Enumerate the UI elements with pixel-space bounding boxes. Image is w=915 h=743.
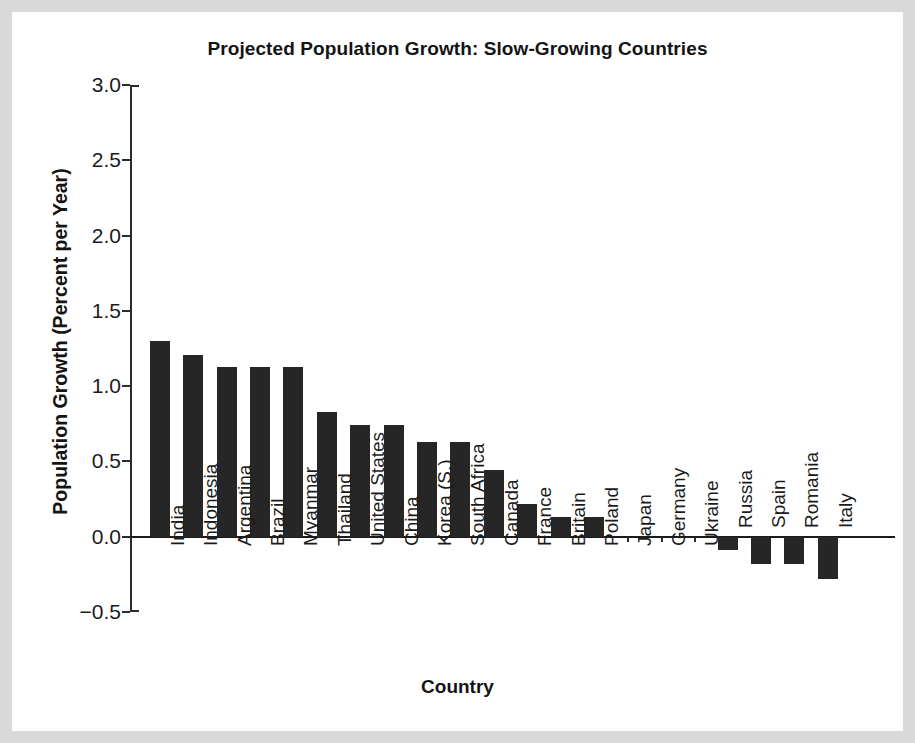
page-title: Projected Population Growth: Slow-Growin… [12, 38, 903, 60]
y-tick-label: 1.0 [92, 374, 121, 398]
bar-zero-tick [661, 537, 663, 542]
x-tick-label: Romania [801, 452, 823, 528]
y-tick-label: 2.0 [92, 224, 121, 248]
bar [784, 537, 804, 564]
x-tick-label: Argentina [234, 464, 256, 545]
y-tick-mark [122, 385, 130, 387]
chart-figure: Projected Population Growth: Slow-Growin… [12, 12, 903, 731]
y-axis-bottom-cap [130, 610, 139, 612]
y-tick-mark [122, 536, 130, 538]
y-tick-label: 2.5 [92, 148, 121, 172]
y-tick-mark [122, 84, 130, 86]
y-tick-mark [122, 159, 130, 161]
x-tick-label: Brazil [267, 498, 289, 546]
y-tick-mark [122, 310, 130, 312]
x-tick-label: Korea (S.) [434, 459, 456, 546]
y-tick-label: 0.0 [92, 525, 121, 549]
bar [751, 537, 771, 564]
x-axis-label: Country [12, 676, 903, 698]
x-tick-label: Japan [634, 494, 656, 546]
x-tick-label: Spain [768, 479, 790, 528]
y-axis-spine [130, 85, 132, 612]
x-tick-label: South Africa [467, 443, 489, 545]
y-tick-mark [122, 460, 130, 462]
x-tick-label: Russia [735, 470, 757, 528]
x-tick-label: France [534, 487, 556, 546]
x-tick-label: Britain [568, 492, 590, 546]
y-axis-label: Population Growth (Percent per Year) [49, 82, 72, 602]
y-tick-mark [122, 235, 130, 237]
x-tick-label: Myanmar [300, 467, 322, 546]
x-tick-label: China [401, 496, 423, 546]
y-tick-label: 3.0 [92, 73, 121, 97]
x-tick-label: United States [367, 432, 389, 546]
bar-zero-tick [627, 537, 629, 542]
plot-area: 3.02.52.01.51.00.50.0−0.5 IndiaIndonesia… [130, 85, 890, 612]
x-tick-label: Indonesia [200, 463, 222, 545]
x-tick-label: Canada [501, 479, 523, 546]
x-tick-label: Thailand [334, 473, 356, 546]
y-tick-label: 0.5 [92, 449, 121, 473]
bar [818, 537, 838, 579]
x-tick-label: Italy [835, 493, 857, 528]
x-tick-label: Poland [601, 487, 623, 546]
x-tick-label: Germany [668, 468, 690, 546]
y-axis-top-cap [130, 85, 139, 87]
y-tick-mark [122, 611, 130, 613]
x-tick-label: India [167, 505, 189, 546]
y-tick-label: 1.5 [92, 299, 121, 323]
x-tick-label: Ukraine [701, 480, 723, 545]
y-tick-label: −0.5 [80, 600, 121, 624]
bar-zero-tick [694, 537, 696, 542]
